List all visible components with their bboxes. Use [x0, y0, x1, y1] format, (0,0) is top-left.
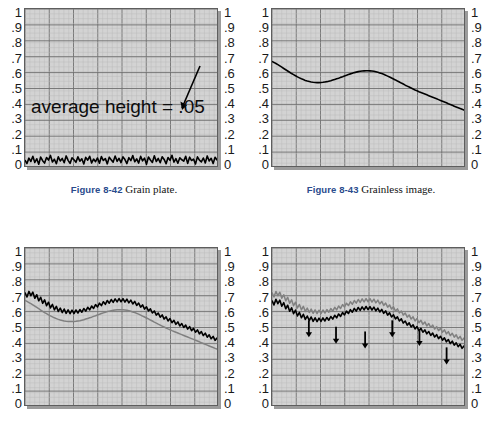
- left-y-axis-8-43: 1.9.8.7.6.5.4.3.2.10: [249, 6, 269, 169]
- plot-svg-8-44: [25, 248, 218, 406]
- right-y-axis-8-42: 1.9.8.7.6.5.4.3.2.10: [224, 6, 244, 169]
- plot-container-8-43: 1.9.8.7.6.5.4.3.2.10 1.9.8.7.6.5.4.3.2.1…: [247, 0, 495, 180]
- left-y-axis-8-42: 1.9.8.7.6.5.4.3.2.10: [2, 6, 22, 169]
- axis-tick-p8: .8: [258, 275, 269, 286]
- axis-tick-p2: .2: [11, 367, 22, 378]
- plot-area-8-44: [24, 247, 218, 406]
- gridlines-8-43: [272, 9, 465, 167]
- axis-tick-p5: .5: [258, 82, 269, 93]
- axis-tick-p1: .1: [11, 143, 22, 154]
- axis-tick-p6: .6: [224, 67, 235, 78]
- axis-tick-p4: .4: [471, 336, 482, 347]
- axis-tick-p1: .1: [258, 382, 269, 393]
- axis-tick-1: 1: [224, 245, 231, 256]
- axis-tick-p8: .8: [11, 275, 22, 286]
- gridlines-8-42: [25, 9, 218, 167]
- axis-tick-p7: .7: [471, 291, 482, 302]
- axis-tick-1: 1: [15, 6, 22, 17]
- axis-tick-p5: .5: [471, 321, 482, 332]
- axis-tick-p3: .3: [258, 112, 269, 123]
- axis-tick-0: 0: [262, 158, 269, 169]
- axis-tick-p4: .4: [224, 97, 235, 108]
- axis-tick-p4: .4: [258, 97, 269, 108]
- plot-svg-8-42: [25, 9, 218, 167]
- axis-tick-p1: .1: [11, 382, 22, 393]
- figure-panel-8-44: 1.9.8.7.6.5.4.3.2.10 1.9.8.7.6.5.4.3.2.1…: [0, 215, 248, 429]
- figure-label-8-42: Figure 8-42: [71, 184, 123, 195]
- plot-container-8-42: 1.9.8.7.6.5.4.3.2.10 1.9.8.7.6.5.4.3.2.1…: [0, 0, 248, 180]
- axis-tick-0: 0: [224, 397, 231, 408]
- plot-area-wrap-8-43: [271, 8, 465, 167]
- axis-tick-p3: .3: [224, 112, 235, 123]
- axis-tick-p1: .1: [258, 143, 269, 154]
- figure-panel-8-45: 1.9.8.7.6.5.4.3.2.10 1.9.8.7.6.5.4.3.2.1…: [247, 215, 495, 429]
- axis-tick-p6: .6: [471, 306, 482, 317]
- figure-caption-8-43: Figure 8-43 Grainless image.: [247, 183, 495, 196]
- axis-tick-p6: .6: [11, 67, 22, 78]
- axis-tick-p1: .1: [224, 143, 235, 154]
- axis-tick-0: 0: [224, 158, 231, 169]
- axis-tick-0: 0: [15, 397, 22, 408]
- axis-tick-p8: .8: [224, 275, 235, 286]
- axis-tick-p1: .1: [471, 143, 482, 154]
- down-arrows-8-45: [306, 320, 450, 364]
- axis-tick-0: 0: [471, 397, 478, 408]
- plot-area-8-43: [271, 8, 465, 167]
- axis-tick-p5: .5: [258, 321, 269, 332]
- axis-tick-0: 0: [15, 158, 22, 169]
- axis-tick-p1: .1: [471, 382, 482, 393]
- axis-tick-p7: .7: [11, 291, 22, 302]
- axis-tick-p5: .5: [471, 82, 482, 93]
- axis-tick-p7: .7: [224, 291, 235, 302]
- axis-tick-p8: .8: [224, 36, 235, 47]
- axis-tick-p5: .5: [11, 82, 22, 93]
- figure-grid: 1.9.8.7.6.5.4.3.2.10 1.9.8.7.6.5.4.3.2.1…: [0, 0, 495, 429]
- axis-tick-1: 1: [262, 6, 269, 17]
- axis-tick-p4: .4: [471, 97, 482, 108]
- axis-tick-p7: .7: [258, 291, 269, 302]
- plot-area-8-42: [24, 8, 218, 167]
- axis-tick-p9: .9: [224, 21, 235, 32]
- axis-tick-p2: .2: [471, 128, 482, 139]
- axis-tick-p4: .4: [11, 97, 22, 108]
- axis-tick-p9: .9: [471, 21, 482, 32]
- figure-label-8-43: Figure 8-43: [307, 184, 359, 195]
- plot-area-wrap-8-44: [24, 247, 218, 406]
- axis-tick-p9: .9: [11, 21, 22, 32]
- axis-tick-p8: .8: [11, 36, 22, 47]
- axis-tick-p6: .6: [11, 306, 22, 317]
- axis-tick-p9: .9: [258, 21, 269, 32]
- axis-tick-p4: .4: [11, 336, 22, 347]
- axis-tick-p5: .5: [224, 321, 235, 332]
- figure-title-8-43: Grainless image.: [361, 183, 435, 195]
- plot-svg-8-45: [272, 248, 465, 406]
- plot-container-8-45: 1.9.8.7.6.5.4.3.2.10 1.9.8.7.6.5.4.3.2.1…: [247, 239, 495, 419]
- axis-tick-p7: .7: [224, 52, 235, 63]
- axis-tick-p6: .6: [224, 306, 235, 317]
- plot-area-wrap-8-42: [24, 8, 218, 167]
- axis-tick-1: 1: [15, 245, 22, 256]
- axis-tick-0: 0: [262, 397, 269, 408]
- figure-panel-8-42: 1.9.8.7.6.5.4.3.2.10 1.9.8.7.6.5.4.3.2.1…: [0, 0, 248, 215]
- plot-container-8-44: 1.9.8.7.6.5.4.3.2.10 1.9.8.7.6.5.4.3.2.1…: [0, 239, 248, 419]
- axis-tick-p5: .5: [11, 321, 22, 332]
- axis-tick-p9: .9: [11, 260, 22, 271]
- right-y-axis-8-45: 1.9.8.7.6.5.4.3.2.10: [471, 245, 491, 408]
- axis-tick-p2: .2: [224, 128, 235, 139]
- axis-tick-p2: .2: [471, 367, 482, 378]
- axis-tick-0: 0: [471, 158, 478, 169]
- left-y-axis-8-45: 1.9.8.7.6.5.4.3.2.10: [249, 245, 269, 408]
- axis-tick-p2: .2: [258, 128, 269, 139]
- axis-tick-p3: .3: [11, 351, 22, 362]
- axis-tick-p8: .8: [471, 275, 482, 286]
- axis-tick-p2: .2: [258, 367, 269, 378]
- axis-tick-p9: .9: [471, 260, 482, 271]
- figure-panel-8-43: 1.9.8.7.6.5.4.3.2.10 1.9.8.7.6.5.4.3.2.1…: [247, 0, 495, 215]
- axis-tick-p5: .5: [224, 82, 235, 93]
- plot-svg-8-43: [272, 9, 465, 167]
- axis-tick-1: 1: [471, 6, 478, 17]
- axis-tick-1: 1: [262, 245, 269, 256]
- axis-tick-p3: .3: [471, 112, 482, 123]
- axis-tick-p7: .7: [471, 52, 482, 63]
- axis-tick-1: 1: [224, 6, 231, 17]
